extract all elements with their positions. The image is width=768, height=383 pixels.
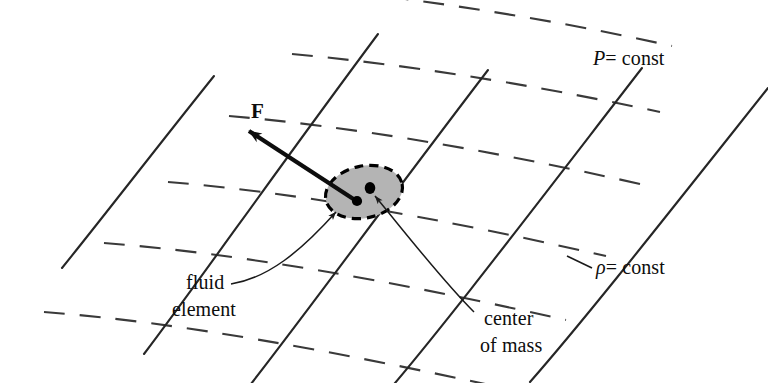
figure-canvas: F P= const ρ= const fluid element center… [0,0,768,383]
fluid-element-label-line1: fluid [186,272,224,294]
density-contour-line [352,0,672,46]
center-of-mass-label-line1: center [484,308,533,330]
pressure-contour-line [530,88,768,382]
force-application-point [352,196,362,206]
force-label: F [251,100,264,123]
fluid-element-leader-line [231,212,336,284]
center-of-mass-point [365,182,376,194]
fluid-element-label-line2: element [172,299,236,321]
force-vector-arrow [249,131,358,202]
center-of-mass-label-line2: of mass [480,335,542,357]
pressure-contour-line [62,76,214,268]
pressure-symbol: P [593,47,605,69]
density-contour-line [44,312,522,383]
density-contour-label: ρ= const [596,257,665,279]
center-of-mass-leader-line [375,196,474,312]
pressure-contour-line [240,70,488,383]
density-symbol: ρ [596,256,606,278]
density-label-leader-line [567,256,592,268]
density-value: = const [606,256,665,278]
pressure-contour-label: P= const [593,48,665,70]
pressure-contour-lines [62,34,768,383]
pressure-value: = const [605,47,664,69]
